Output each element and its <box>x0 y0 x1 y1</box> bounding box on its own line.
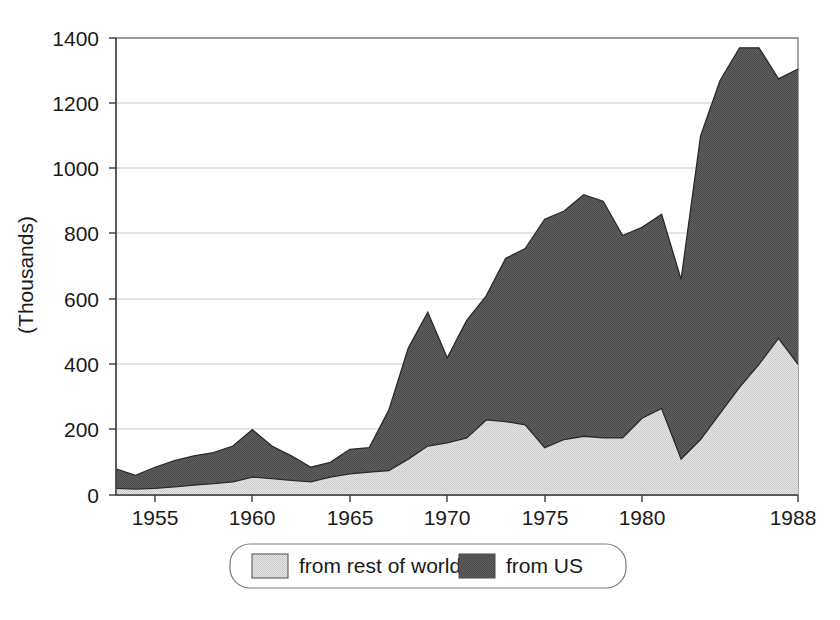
x-tick-label-1965: 1965 <box>327 506 374 529</box>
legend-label-from-us: from US <box>506 554 583 577</box>
y-tick-label-0: 0 <box>87 484 99 507</box>
legend-swatch-from-us <box>459 554 495 578</box>
legend-swatch-rest-of-world <box>252 554 288 578</box>
legend: from rest of world from US <box>230 544 626 588</box>
y-axis-title: (Thousands) <box>14 216 37 334</box>
x-tickmarks <box>155 495 798 502</box>
y-tick-label-1000: 1000 <box>52 157 99 180</box>
y-tickmarks <box>109 38 116 495</box>
x-tick-label-1980: 1980 <box>619 506 666 529</box>
x-tick-label-1975: 1975 <box>522 506 569 529</box>
x-tick-label-1988: 1988 <box>770 506 817 529</box>
x-tick-label-1955: 1955 <box>132 506 179 529</box>
y-tick-label-400: 400 <box>64 353 99 376</box>
x-tick-label-1970: 1970 <box>424 506 471 529</box>
y-tick-label-1400: 1400 <box>52 27 99 50</box>
chart-page: 1400 1200 1000 800 600 400 200 0 (Thousa… <box>0 0 840 620</box>
legend-label-rest-of-world: from rest of world <box>299 554 461 577</box>
y-tick-label-600: 600 <box>64 288 99 311</box>
x-tick-label-1960: 1960 <box>229 506 276 529</box>
stacked-area-chart: 1400 1200 1000 800 600 400 200 0 (Thousa… <box>0 0 840 620</box>
y-tick-label-1200: 1200 <box>52 92 99 115</box>
y-tick-label-800: 800 <box>64 222 99 245</box>
y-tick-label-200: 200 <box>64 418 99 441</box>
